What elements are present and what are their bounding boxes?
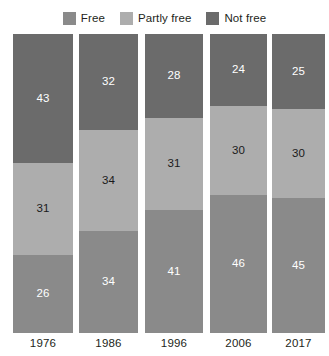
bar-segment-1976-free[interactable]: 26 — [13, 255, 73, 333]
x-axis-label-2006: 2006 — [210, 336, 267, 350]
legend-label: Free — [81, 12, 105, 25]
bar-segment-value: 31 — [167, 158, 180, 170]
bar-1996[interactable]: 283141 — [145, 34, 203, 333]
bar-segment-value: 46 — [232, 258, 245, 270]
legend-label: Partly free — [138, 12, 192, 25]
bar-segment-1976-not-free[interactable]: 43 — [13, 34, 73, 163]
bar-segment-value: 24 — [232, 64, 245, 76]
legend-swatch-icon — [206, 12, 219, 25]
bar-segment-2006-free[interactable]: 46 — [210, 195, 267, 333]
bar-segment-1996-partly-free[interactable]: 31 — [145, 118, 203, 211]
bar-segment-value: 25 — [292, 66, 305, 78]
bar-segment-value: 34 — [102, 276, 115, 288]
bar-segment-value: 43 — [36, 93, 49, 105]
bar-segment-value: 28 — [167, 70, 180, 82]
bar-segment-2006-partly-free[interactable]: 30 — [210, 106, 267, 196]
x-axis-label-1996: 1996 — [145, 336, 203, 350]
bar-1976[interactable]: 433126 — [13, 34, 73, 333]
bar-segment-2017-free[interactable]: 45 — [272, 198, 325, 333]
legend-item-not-free[interactable]: Not free — [206, 12, 266, 25]
legend-swatch-icon — [120, 12, 133, 25]
x-axis-label-2017: 2017 — [272, 336, 325, 350]
bar-segment-2006-not-free[interactable]: 24 — [210, 34, 267, 106]
bar-segment-1986-free[interactable]: 34 — [79, 231, 138, 333]
legend-label: Not free — [224, 12, 266, 25]
stacked-bar-chart: FreePartly freeNot free 4331263234342831… — [0, 0, 329, 356]
bar-segment-1976-partly-free[interactable]: 31 — [13, 163, 73, 256]
bar-segment-1986-partly-free[interactable]: 34 — [79, 130, 138, 232]
bar-segment-value: 30 — [292, 148, 305, 160]
bar-segment-2017-not-free[interactable]: 25 — [272, 34, 325, 109]
bar-segment-2017-partly-free[interactable]: 30 — [272, 109, 325, 199]
legend-item-free[interactable]: Free — [63, 12, 105, 25]
x-axis-label-1986: 1986 — [79, 336, 138, 350]
bar-1986[interactable]: 323434 — [79, 34, 138, 333]
bar-segment-value: 31 — [36, 203, 49, 215]
plot-area: 433126323434283141243046253045 — [0, 34, 329, 333]
x-axis-label-1976: 1976 — [13, 336, 73, 350]
bar-segment-value: 26 — [36, 288, 49, 300]
bar-segment-value: 41 — [167, 266, 180, 278]
legend-item-partly-free[interactable]: Partly free — [120, 12, 192, 25]
legend-swatch-icon — [63, 12, 76, 25]
chart-legend: FreePartly freeNot free — [0, 8, 329, 28]
bar-2017[interactable]: 253045 — [272, 34, 325, 333]
bar-segment-value: 32 — [102, 76, 115, 88]
bar-segment-value: 30 — [232, 145, 245, 157]
bar-2006[interactable]: 243046 — [210, 34, 267, 333]
bar-segment-value: 45 — [292, 260, 305, 272]
bar-segment-value: 34 — [102, 175, 115, 187]
x-axis: 19761986199620062017 — [0, 334, 329, 356]
bar-segment-1996-free[interactable]: 41 — [145, 210, 203, 333]
bar-segment-1996-not-free[interactable]: 28 — [145, 34, 203, 118]
bar-segment-1986-not-free[interactable]: 32 — [79, 34, 138, 130]
